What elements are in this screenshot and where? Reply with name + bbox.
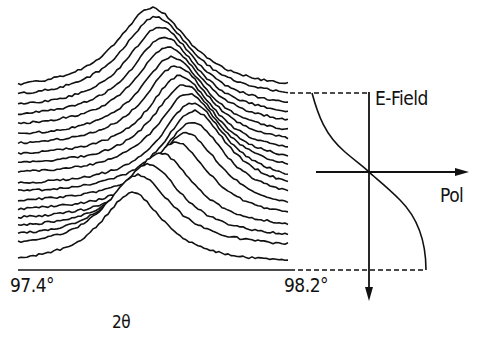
x-max-label: 98.2°: [284, 274, 328, 296]
e-field-arrowhead-icon: [365, 287, 373, 301]
diffraction-profiles: [18, 7, 290, 272]
e-field-label: E-Field: [375, 87, 428, 109]
x-axis-title: 2θ: [112, 312, 130, 332]
diffraction-figure: [0, 0, 492, 342]
pol-arrowhead-icon: [455, 168, 469, 176]
pol-label: Pol: [440, 184, 463, 206]
x-min-label: 97.4°: [10, 274, 54, 296]
